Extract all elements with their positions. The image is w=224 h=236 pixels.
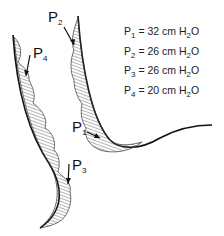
legend-row-p4: P4 = 20 cm H2O <box>124 83 199 103</box>
label-p4: P4 <box>33 44 47 63</box>
legend-row-p3: P3 = 26 cm H2O <box>124 63 199 83</box>
legend-row-p2: P2 = 26 cm H2O <box>124 44 199 64</box>
legend-row-p1: P1 = 32 cm H2O <box>124 24 199 44</box>
pressure-legend: P1 = 32 cm H2O P2 = 26 cm H2O P3 = 26 cm… <box>124 24 199 102</box>
label-p1: P1 <box>72 118 86 137</box>
label-p3: P3 <box>72 156 86 175</box>
left-tube-bulges <box>14 37 71 228</box>
label-p2: P2 <box>48 8 62 27</box>
